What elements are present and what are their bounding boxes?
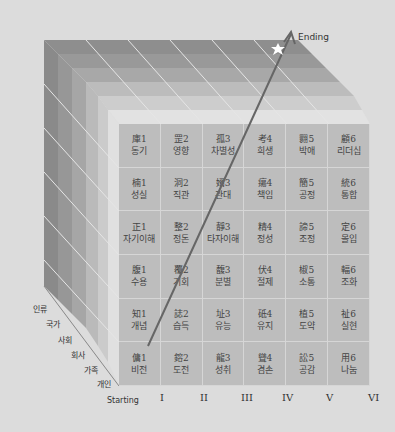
column-label-6: VI (368, 392, 379, 403)
layer-label-3: 사회 (58, 334, 72, 345)
arrow-layer (0, 0, 395, 432)
column-label-4: IV (282, 392, 293, 403)
layer-label-5: 가족 (84, 364, 98, 375)
progress-arrow (148, 34, 291, 346)
column-label-2: II (200, 392, 208, 403)
ending-label: Ending (298, 32, 329, 42)
layer-label-2: 국가 (46, 318, 60, 329)
layer-label-1: 인류 (33, 303, 47, 314)
layer-label-4: 회사 (71, 349, 85, 360)
column-label-1: I (160, 392, 164, 403)
layer-label-6: 개인 (97, 378, 111, 389)
starting-label: Starting (107, 396, 139, 405)
column-label-5: V (326, 392, 333, 403)
column-label-3: III (241, 392, 253, 403)
